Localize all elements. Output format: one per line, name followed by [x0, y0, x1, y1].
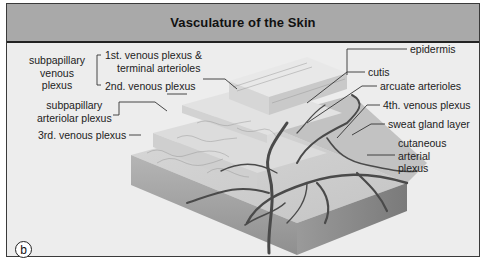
label-arcuate-arterioles: arcuate arterioles: [380, 80, 461, 93]
label-4th-venous-plexus: 4th. venous plexus: [383, 99, 471, 112]
label-line: arterial: [398, 150, 446, 163]
label-line: plexus: [29, 79, 85, 92]
panel-label: b: [20, 243, 27, 257]
label-subpapillary-venous-plexus: subpapillary venous plexus: [29, 54, 85, 92]
figure-title: Vasculature of the Skin: [170, 15, 315, 30]
label-line: venous: [29, 67, 85, 80]
label-cutis: cutis: [368, 66, 390, 79]
title-bar: Vasculature of the Skin: [7, 4, 479, 43]
label-sweat-gland-layer: sweat gland layer: [388, 118, 470, 131]
label-line: 1st. venous plexus &: [105, 49, 202, 62]
label-line: subpapillary: [37, 99, 112, 112]
label-subpapillary-arteriolar-plexus: subpapillary arteriolar plexus: [37, 99, 112, 124]
label-line: cutaneous: [398, 137, 446, 150]
label-epidermis: epidermis: [410, 43, 456, 56]
figure-frame: Vasculature of the Skin: [6, 3, 480, 257]
label-line: subpapillary: [29, 54, 85, 67]
panel-label-badge: b: [15, 241, 32, 258]
label-cutaneous-arterial-plexus: cutaneous arterial plexus: [398, 137, 446, 175]
label-3rd-venous-plexus: 3rd. venous plexus: [38, 129, 126, 142]
label-line: terminal arterioles: [105, 62, 202, 75]
label-2nd-venous-plexus: 2nd. venous plexus: [105, 80, 195, 93]
label-1st-venous-plexus: 1st. venous plexus & terminal arterioles: [105, 49, 202, 74]
label-line: plexus: [398, 162, 446, 175]
label-line: arteriolar plexus: [37, 112, 112, 125]
diagram-area: subpapillary venous plexus 1st. venous p…: [7, 43, 479, 256]
